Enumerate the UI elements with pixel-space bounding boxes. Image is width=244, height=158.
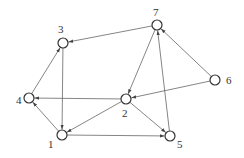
edge-5-to-7 [158,30,170,131]
edge-6-to-2 [131,81,210,98]
edge-6-to-7 [161,29,211,77]
node-2: 2 [121,94,131,119]
node-circle [165,131,175,141]
node-circle [152,20,162,30]
node-label: 6 [226,74,232,86]
node-1: 1 [48,130,67,150]
node-label: 1 [48,138,54,150]
edge-1-to-5 [67,135,165,136]
node-label: 5 [177,138,183,150]
node-4: 4 [16,93,34,106]
node-7: 7 [152,6,162,30]
node-circle [58,38,68,48]
edge-1-to-4 [33,102,59,131]
node-label: 2 [122,107,128,119]
edge-2-to-1 [67,101,122,132]
node-circle [121,94,131,104]
node-label: 7 [153,6,159,18]
directed-graph: 1234567 [0,0,244,158]
node-circle [57,130,67,140]
edge-2-to-5 [130,102,166,132]
node-label: 4 [16,94,22,106]
edge-2-to-4 [34,98,121,99]
node-5: 5 [165,131,183,150]
edge-7-to-2 [128,30,155,94]
nodes-layer: 1234567 [16,6,232,150]
edge-4-to-3 [32,48,60,94]
node-circle [24,93,34,103]
node-circle [210,75,220,85]
node-label: 3 [58,23,64,35]
edge-7-to-3 [68,26,152,42]
edge-3-to-1 [62,48,63,130]
node-6: 6 [210,74,232,86]
node-3: 3 [58,23,68,48]
